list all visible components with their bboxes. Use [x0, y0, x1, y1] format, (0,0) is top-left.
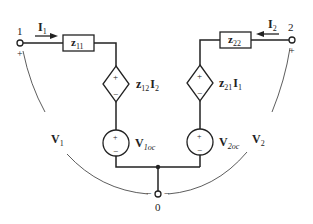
- src-left-minus: −: [113, 146, 118, 156]
- label-v2oc: V2oc: [219, 135, 240, 151]
- arrowhead-i1: [50, 33, 58, 39]
- minus-ground-right: −: [164, 188, 170, 199]
- voltage-arc-v2-upper: [272, 48, 290, 112]
- terminal-port2: [289, 37, 295, 43]
- src-right-plus: +: [197, 132, 202, 141]
- label-v1oc: V1oc: [135, 136, 156, 152]
- src-right-minus: −: [197, 145, 202, 155]
- wire-z22-to-dep-source-right: [200, 40, 220, 65]
- label-i2: I2: [268, 17, 277, 33]
- voltage-arc-v1-upper: [23, 51, 45, 112]
- voltage-arc-v1-lower: [67, 154, 148, 194]
- terminal-port1: [17, 40, 23, 46]
- label-terminal-0: 0: [155, 201, 161, 213]
- label-terminal-1: 1: [17, 25, 23, 37]
- src-left-plus: +: [113, 133, 118, 142]
- label-z21-i1: z21I1: [219, 76, 242, 92]
- voltage-arc-v2-lower: [168, 152, 247, 194]
- minus-ground-left: −: [146, 188, 152, 199]
- dep-right-plus: +: [197, 71, 202, 81]
- label-terminal-2: 2: [288, 21, 294, 33]
- arrowhead-i2: [256, 31, 264, 37]
- plus-port2: +: [289, 45, 295, 56]
- dep-left-minus: −: [113, 89, 118, 99]
- terminal-ground: [155, 191, 161, 197]
- plus-port1: +: [17, 48, 23, 59]
- label-v2: V2: [252, 132, 265, 148]
- dep-left-plus: +: [113, 72, 118, 82]
- circuit-diagram: 1 2 0 + + − − I1 I2 z11 z22 + − + − z12I…: [0, 0, 313, 224]
- dep-right-minus: −: [197, 88, 202, 98]
- wire-z11-to-dep-source-left: [94, 43, 116, 66]
- label-z12-i2: z12I2: [136, 77, 159, 93]
- label-i1: I1: [38, 20, 47, 36]
- label-v1: V1: [51, 132, 64, 148]
